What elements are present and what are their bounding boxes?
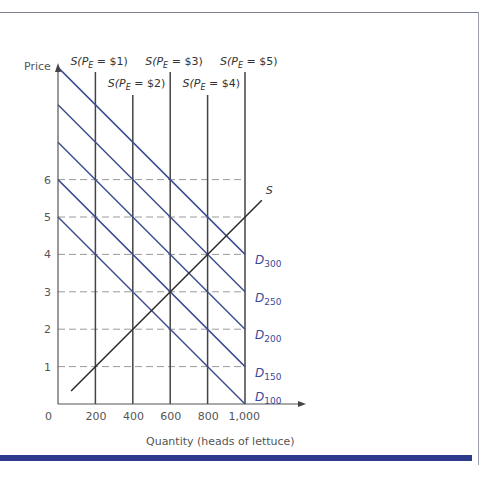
supply-line	[71, 200, 262, 391]
y-tick-label: 4	[44, 248, 51, 261]
supply-curve	[71, 200, 262, 391]
x-tick-label: 400	[123, 410, 144, 423]
demand-label: D250	[255, 291, 282, 307]
y-tick-label: 5	[44, 211, 51, 224]
vertical-supply-label: S(PE = $1)	[70, 55, 127, 70]
vertical-supply-label: S(PE = $2)	[108, 77, 165, 92]
y-tick-label: 6	[44, 174, 51, 187]
demand-line	[58, 142, 245, 329]
demand-label: D300	[255, 253, 282, 269]
x-tick-label: 0	[45, 410, 52, 423]
y-tick-label: 3	[44, 286, 51, 299]
curve-labels: S(PE = $1)S(PE = $2)S(PE = $3)S(PE = $4)…	[70, 55, 281, 406]
demand-label: D150	[255, 366, 282, 382]
y-axis-label: Price	[24, 60, 51, 73]
supply-label: S	[266, 184, 273, 197]
x-tick-label: 600	[160, 410, 181, 423]
y-tick-label: 2	[44, 323, 51, 336]
x-tick-label: 200	[86, 410, 107, 423]
x-axis-label: Quantity (heads of lettuce)	[146, 435, 295, 448]
vertical-supply-label: S(PE = $4)	[183, 77, 240, 92]
demand-line	[58, 105, 245, 292]
x-tick-label: 800	[198, 410, 219, 423]
y-axis-arrow-icon	[55, 63, 61, 72]
vertical-supply-label: S(PE = $5)	[220, 55, 277, 70]
x-axis-arrow-icon	[298, 401, 306, 407]
demand-label: D200	[255, 328, 282, 344]
demand-line	[58, 67, 245, 254]
x-tick-label: 1,000	[229, 410, 261, 423]
vertical-supply-label: S(PE = $3)	[145, 55, 202, 70]
demand-line	[58, 180, 245, 367]
demand-label: D100	[255, 390, 282, 406]
vertical-supply-curves	[95, 72, 245, 404]
demand-curves	[58, 67, 245, 404]
y-tick-label: 1	[44, 361, 51, 374]
chart-canvas: Price Quantity (heads of lettuce) 123456…	[0, 0, 492, 486]
